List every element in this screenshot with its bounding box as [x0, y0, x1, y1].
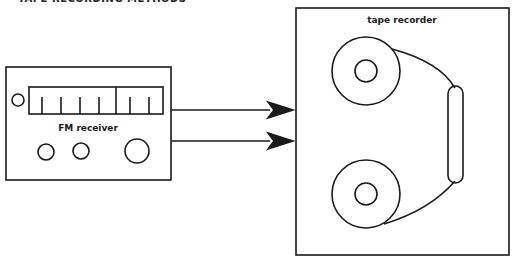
- supply-reel-icon: [332, 37, 400, 105]
- reel-hub-icon: [355, 60, 377, 82]
- knob-large-icon: [125, 139, 149, 163]
- tape-recorder-label: tape recorder: [367, 15, 437, 25]
- knob-icon: [38, 144, 54, 160]
- tuning-dial: [29, 87, 163, 114]
- tape-head-icon: [448, 86, 463, 183]
- signal-arrows: [171, 102, 293, 149]
- arrow-head-icon: [268, 133, 293, 149]
- takeup-reel-icon: [332, 160, 400, 228]
- knob-icon: [73, 143, 89, 159]
- arrow-head-icon: [268, 102, 293, 118]
- tape-path: [384, 181, 455, 224]
- reel-hub-icon: [355, 183, 377, 205]
- power-indicator-icon: [12, 94, 24, 106]
- tape-path: [392, 49, 455, 88]
- fm-receiver-label: FM receiver: [58, 123, 118, 133]
- tape-recorder: [296, 8, 509, 255]
